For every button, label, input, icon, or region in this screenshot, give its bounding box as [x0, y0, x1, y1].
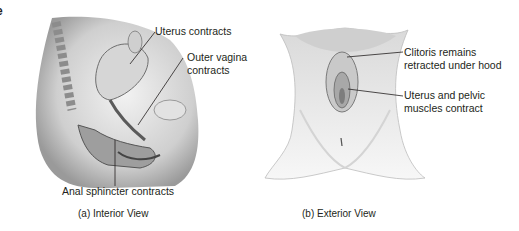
- caption-exterior-view: (b) Exterior View: [302, 208, 376, 220]
- caption-interior-view: (a) Interior View: [78, 208, 148, 220]
- label-anal-sphincter-contracts: Anal sphincter contracts: [62, 185, 174, 198]
- label-uterus-contracts: Uterus contracts: [155, 25, 231, 38]
- label-outer-vagina-line1: Outer vagina: [187, 51, 247, 64]
- label-outer-vagina-line2: contracts: [187, 64, 230, 77]
- exterior-view-illustration: [265, 28, 425, 179]
- label-uterus-pelvic-line2: muscles contract: [404, 102, 483, 115]
- label-uterus-pelvic-line1: Uterus and pelvic: [404, 89, 485, 102]
- label-clitoris-line2: retracted under hood: [404, 59, 501, 72]
- interior-view-illustration: [36, 17, 199, 188]
- label-clitoris-line1: Clitoris remains: [404, 46, 476, 59]
